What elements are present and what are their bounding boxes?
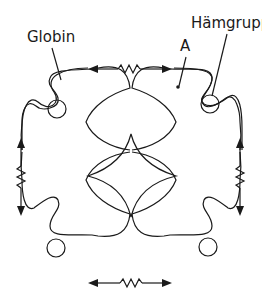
leader-line-haemgroup [212,34,227,96]
leader-line-subunit-a [179,57,186,86]
spring-link-bottom [88,279,172,287]
subunit-bottom-right-outline [132,152,241,236]
subunit-a-marker [176,85,180,89]
arrowhead-left-down-icon [17,206,25,216]
subunit-top-left-outline [21,67,130,150]
spring-link-top [88,65,172,73]
top-right-lobe [174,68,242,150]
label-globin: Globin [27,30,75,45]
spring-link-left [17,138,25,216]
subunit-top-right-outline [132,67,241,150]
central-cavity [88,134,176,217]
label-subunit-a: A [180,39,190,54]
arrowhead-bottom-left-icon [88,279,98,287]
label-haemgroup: Hämgruppe [191,16,262,31]
top-left-lobe [22,68,88,150]
arrowhead-top-left-icon [88,65,98,73]
arrowhead-bottom-right-icon [162,279,172,287]
arrowhead-left-up-icon [17,138,25,148]
arrowhead-top-right-icon [162,65,172,73]
subunit-bottom-left-outline [21,152,130,236]
arrowhead-right-up-icon [236,138,244,148]
arrowhead-right-down-icon [236,206,244,216]
haem-group-bottom-right [199,238,217,256]
haem-group-bottom-left [47,239,65,257]
